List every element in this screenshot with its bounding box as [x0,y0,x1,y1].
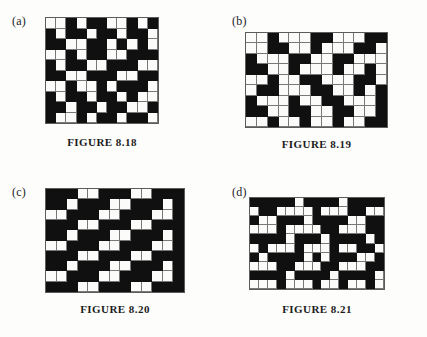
grid-cell [97,92,107,103]
grid-cell [163,199,174,209]
grid-cell [173,230,184,240]
grid-cell [88,189,99,199]
grid-cell [99,220,110,230]
grid-cell [120,230,131,240]
grid-cell [268,253,277,262]
grid-cell [313,253,322,262]
grid-cell [376,106,387,116]
grid-cell [277,207,286,216]
grid-cell [120,241,131,251]
grid-cell [110,271,121,281]
panel-label-b: (b) [232,14,247,29]
figure-caption-d: FIGURE 8.21 [249,303,385,315]
grid-cell [46,50,56,61]
grid-cell [344,64,355,74]
grid-cell [77,39,87,50]
grid-cell [277,198,286,207]
grid-cell [344,117,355,127]
grid-cell [152,271,163,281]
grid-cell [286,271,295,280]
grid-cell [277,271,286,280]
grid-cell [148,60,158,71]
grid-cells-b [245,32,388,128]
grid-cell [333,85,344,95]
binary-grid-c [45,188,185,293]
grid-cell [46,102,56,113]
grid-cell [120,220,131,230]
grid-cell [257,117,268,127]
grid-cell [295,207,304,216]
grid-cell [375,244,384,253]
grid-cell [330,271,339,280]
grid-cell [295,262,304,271]
grid-cell [354,117,365,127]
grid-cell [311,33,322,43]
grid-cell [110,251,121,261]
grid-cell [107,29,117,40]
grid-cell [333,75,344,85]
grid-cell [120,261,131,271]
grid-cell [67,282,78,292]
grid-cell [250,234,259,243]
grid-cell [163,241,174,251]
grid-cell [354,54,365,64]
grid-cell [333,33,344,43]
grid-cell [138,102,148,113]
grid-cell [127,18,137,29]
grid-cell [148,102,158,113]
grid-cell [131,271,142,281]
grid-cell [322,117,333,127]
grid-cell [376,33,387,43]
grid-cell [57,199,68,209]
grid-cell [366,262,375,271]
grid-cell [279,117,290,127]
grid-cell [46,18,56,29]
grid-cell [259,244,268,253]
grid-cell [250,280,259,289]
grid-cell [67,261,78,271]
grid-cell [257,96,268,106]
grid-cell [131,189,142,199]
grid-cell [339,262,348,271]
grid-cell [365,33,376,43]
grid-cell [99,251,110,261]
grid-cell [142,199,153,209]
grid-cell [87,92,97,103]
grid-cell [366,207,375,216]
grid-cell [120,282,131,292]
grid-cell [268,54,279,64]
grid-cell [330,253,339,262]
grid-cell [376,75,387,85]
grid-cell [120,251,131,261]
grid-cell [46,251,57,261]
grid-cell [321,225,330,234]
grid-cell [304,225,313,234]
grid-cell [257,43,268,53]
grid-cell [289,85,300,95]
grid-cell [99,230,110,240]
grid-cell [56,113,66,124]
grid-cell [366,198,375,207]
grid-cell [366,216,375,225]
grid-cell [375,253,384,262]
grid-cell [56,81,66,92]
grid-cell [117,71,127,82]
grid-cell [152,230,163,240]
grid-cell [348,244,357,253]
figure-caption-a: FIGURE 8.18 [45,136,159,148]
grid-cell [289,33,300,43]
grid-cell [357,280,366,289]
grid-cell [88,282,99,292]
grid-cell [107,39,117,50]
grid-cell [348,216,357,225]
grid-cell [330,216,339,225]
grid-cell [354,75,365,85]
grid-cell [148,81,158,92]
grid-cell [87,81,97,92]
grid-cell [163,282,174,292]
grid-cell [107,113,117,124]
grid-cell [300,85,311,95]
grid-cell [286,262,295,271]
grid-cell [365,85,376,95]
grid-cell [250,262,259,271]
